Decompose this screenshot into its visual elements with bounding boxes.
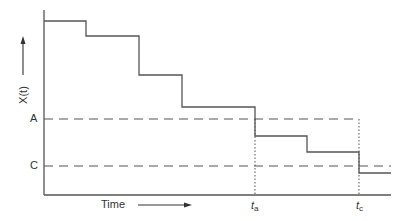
x-of-t-step-curve <box>44 21 391 173</box>
threshold-c-label: C <box>30 159 38 171</box>
ta-label: ta <box>251 199 259 213</box>
diagram-canvas: X(t) A C Time ta tc <box>0 0 407 221</box>
tc-sub: c <box>359 204 363 213</box>
tc-label: tc <box>356 199 363 213</box>
y-axis-label-text: X(t) <box>17 86 29 104</box>
x-arrow-right-icon <box>184 203 192 208</box>
y-arrow-up-icon <box>21 36 26 44</box>
ta-sub: a <box>254 204 258 213</box>
x-axis-label: Time <box>101 198 125 210</box>
threshold-c-text: C <box>30 159 38 171</box>
step-function-plot <box>0 0 407 221</box>
threshold-a-label: A <box>30 112 37 124</box>
y-axis-label: X(t) <box>17 78 29 112</box>
threshold-a-text: A <box>30 112 37 124</box>
x-axis-label-text: Time <box>101 198 125 210</box>
